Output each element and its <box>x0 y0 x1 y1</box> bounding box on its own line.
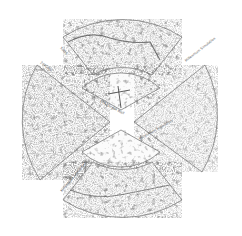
panel-label: Millennium Simulation <box>184 36 216 62</box>
panel-bottom-outer: Millennium Simulation <box>60 161 182 217</box>
panel-top-outer: SDSS <box>59 20 182 75</box>
panel-label: SDSS <box>59 46 68 56</box>
survey-wedge-figure: SDSS CfA2 Great Wall 2dFGRS Millennium S… <box>0 0 242 236</box>
